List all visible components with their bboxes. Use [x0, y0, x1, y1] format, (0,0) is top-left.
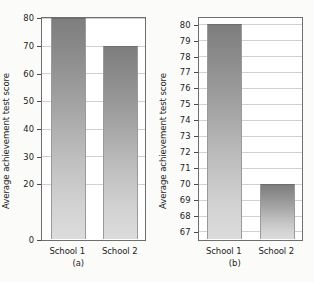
bar-school-1	[51, 18, 86, 239]
y-tick-mark	[37, 157, 41, 158]
y-tick-mark	[194, 184, 198, 185]
y-tick-label: 74	[169, 116, 191, 124]
y-axis-title-b: Average achievement test score	[156, 0, 170, 282]
y-tick-mark	[37, 240, 41, 241]
y-tick-mark	[194, 200, 198, 201]
y-tick-mark	[194, 152, 198, 153]
y-tick-mark	[37, 46, 41, 47]
y-tick-label: 75	[169, 100, 191, 108]
y-tick-label: 71	[169, 164, 191, 172]
plot-area-a	[41, 17, 146, 241]
y-tick-label: 77	[169, 68, 191, 76]
y-tick-label: 76	[169, 84, 191, 92]
figure-two-bar-charts: Average achievement test score 020304050…	[0, 0, 313, 282]
y-tick-mark	[194, 232, 198, 233]
y-tick-label: 72	[169, 148, 191, 156]
chart-panel-b: Average achievement test score 676869707…	[157, 0, 314, 282]
panel-caption-b: (b)	[157, 258, 314, 268]
bar-school-2	[103, 46, 138, 240]
y-tick-mark	[194, 104, 198, 105]
y-tick-mark	[194, 168, 198, 169]
x-axis-label: School 1	[194, 246, 254, 256]
y-tick-label: 78	[169, 52, 191, 60]
y-tick-mark	[194, 136, 198, 137]
y-tick-label: 30	[12, 152, 34, 160]
y-tick-label: 80	[12, 14, 34, 22]
y-tick-label: 80	[169, 20, 191, 28]
y-tick-label: 20	[12, 180, 34, 188]
x-axis-label: School 1	[37, 246, 97, 256]
y-tick-label: 60	[12, 69, 34, 77]
y-tick-label: 79	[169, 36, 191, 44]
y-tick-mark	[194, 216, 198, 217]
chart-panel-a: Average achievement test score 020304050…	[0, 0, 157, 282]
y-tick-label: 70	[169, 180, 191, 188]
y-tick-label: 68	[169, 212, 191, 220]
y-tick-label: 0	[12, 235, 34, 243]
x-axis-label: School 2	[246, 246, 306, 256]
y-tick-mark	[37, 18, 41, 19]
x-axis-label: School 2	[90, 246, 150, 256]
y-tick-label: 40	[12, 125, 34, 133]
y-tick-mark	[194, 57, 198, 58]
y-tick-mark	[37, 184, 41, 185]
y-tick-label: 69	[169, 196, 191, 204]
y-tick-mark	[194, 25, 198, 26]
y-tick-label: 67	[169, 228, 191, 236]
y-tick-label: 73	[169, 132, 191, 140]
y-tick-mark	[194, 120, 198, 121]
y-tick-mark	[37, 129, 41, 130]
y-tick-mark	[194, 88, 198, 89]
y-tick-label: 70	[12, 42, 34, 50]
y-tick-mark	[37, 74, 41, 75]
y-tick-mark	[194, 72, 198, 73]
y-tick-label: 50	[12, 97, 34, 105]
panel-caption-a: (a)	[0, 258, 157, 268]
plot-area-b	[198, 17, 303, 241]
y-tick-mark	[194, 41, 198, 42]
y-tick-mark	[37, 101, 41, 102]
bar-school-1	[207, 24, 242, 239]
bar-school-2	[260, 184, 295, 240]
